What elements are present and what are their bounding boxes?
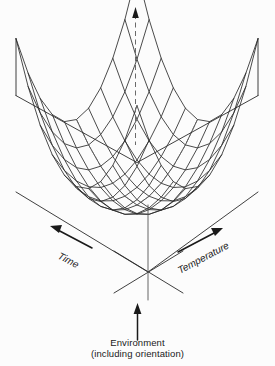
surface-diagram-svg: Time Temperature [0, 0, 275, 366]
mesh-line-v-9 [125, 73, 246, 201]
environment-caption: Environment (including orientation) [0, 338, 275, 360]
temperature-axis-label: Temperature [176, 239, 231, 275]
temperature-axis-annotation: Temperature [176, 228, 231, 276]
mesh-line-u-4 [89, 108, 210, 201]
vertical-axis-arrowhead [132, 7, 139, 18]
mesh-line-u-10 [16, 39, 137, 189]
time-arrow-shaft [56, 229, 92, 248]
time-axis-annotation: Time [50, 225, 92, 270]
temperature-arrow-head [211, 228, 223, 236]
mesh-line-v-4 [64, 108, 185, 201]
caption-line-secondary: (including orientation) [0, 349, 275, 360]
surface-skirt-edges [16, 39, 258, 163]
mesh-line-v-5 [77, 120, 198, 211]
vertical-response-axis [132, 7, 139, 145]
mesh-line-v-10 [137, 39, 258, 189]
mesh-line-u-5 [77, 120, 198, 211]
mesh-line-u-3 [101, 88, 222, 188]
mesh-line-u-9 [28, 73, 149, 201]
environment-arrow [134, 303, 142, 340]
figure-page: Time Temperature Environment (including … [0, 0, 275, 366]
mesh-line-v-3 [52, 88, 173, 188]
surface-mesh [16, 0, 258, 214]
time-axis-label: Time [56, 250, 81, 270]
environment-arrow-head [134, 303, 142, 314]
